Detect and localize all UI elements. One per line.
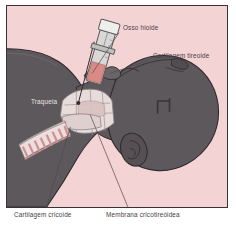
anatomy-illustration [7, 6, 227, 207]
illustration-frame: Osso hioide Cartilagem tireoide Traqueia [6, 5, 228, 208]
needle-insertion-point [76, 101, 80, 105]
caption-layer: Cartilagem cricoide Membrana cricotireói… [6, 208, 228, 238]
label-cricoid-cartilage: Cartilagem cricoide [14, 212, 72, 218]
label-cricothyroid-membrane: Membrana cricotireóidea [106, 212, 180, 218]
figure-root: Osso hioide Cartilagem tireoide Traqueia… [0, 0, 236, 239]
